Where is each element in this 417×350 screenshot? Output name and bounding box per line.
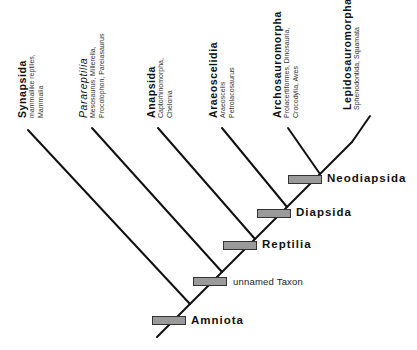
taxon-members: Chelonia xyxy=(166,58,175,118)
taxon-members: Captorhinomorpha, xyxy=(157,58,166,118)
node-label-unnamed-taxon: unnamed Taxon xyxy=(233,276,303,287)
taxon-anapsida: Anapsida Captorhinomorpha, Chelonia xyxy=(145,58,174,118)
taxon-name: Araeoscelidia xyxy=(207,42,219,118)
taxon-name: Synapsida xyxy=(16,54,28,118)
taxon-members: Crocodylia, Aves xyxy=(292,11,301,118)
taxon-name: Lepidosauromorpha xyxy=(341,0,353,110)
taxon-name: Archosauromorpha xyxy=(271,11,283,118)
taxon-members: mammallike reptiles, xyxy=(28,54,37,118)
taxon-name: Parareptilia xyxy=(77,34,89,118)
taxon-members: Sphenodontida, Squamata xyxy=(353,0,362,110)
taxon-members: Procolophon, Pareiasaurus xyxy=(98,34,107,118)
taxon-members: Araeoscelis xyxy=(219,42,228,118)
taxon-synapsida: Synapsida mammallike reptiles, Mammalia xyxy=(16,54,45,118)
node-label-amniota: Amniota xyxy=(191,314,244,326)
branch-parareptilia xyxy=(92,128,222,272)
synapomorphy-box-diapsida xyxy=(257,209,291,218)
node-label-neodiapsida: Neodiapsida xyxy=(327,172,406,184)
taxon-archosauromorpha: Archosauromorpha Prolacertiformes, Dinos… xyxy=(271,11,300,118)
taxon-members: Petrolacosaurus xyxy=(228,42,237,118)
branch-anapsida xyxy=(158,128,255,239)
taxon-parareptilia: Parareptilia Mesosaurus, Millerella, Pro… xyxy=(77,34,106,118)
branch-synapsida xyxy=(28,130,190,304)
branch-araeoscelidia xyxy=(222,128,287,207)
taxon-members: Mesosaurus, Millerella, xyxy=(89,34,98,118)
node-label-diapsida: Diapsida xyxy=(296,206,352,218)
node-label-reptilia: Reptilia xyxy=(262,238,312,250)
synapomorphy-box-neodiapsida xyxy=(288,175,322,184)
synapomorphy-box-reptilia xyxy=(223,241,257,250)
branch-archosauromorpha xyxy=(288,128,320,174)
taxon-lepidosauromorpha: Lepidosauromorpha Sphenodontida, Squamat… xyxy=(341,0,362,110)
taxon-members: Prolacertiformes, Dinosauria, xyxy=(283,11,292,118)
synapomorphy-box-amniota xyxy=(152,316,186,325)
taxon-members: Mammalia xyxy=(37,54,46,118)
taxon-araeoscelidia: Araeoscelidia Araeoscelis Petrolacosauru… xyxy=(207,42,236,118)
taxon-name: Anapsida xyxy=(145,58,157,118)
branch-lepidosauromorpha xyxy=(352,116,370,142)
synapomorphy-box-unnamed-taxon xyxy=(193,277,227,286)
